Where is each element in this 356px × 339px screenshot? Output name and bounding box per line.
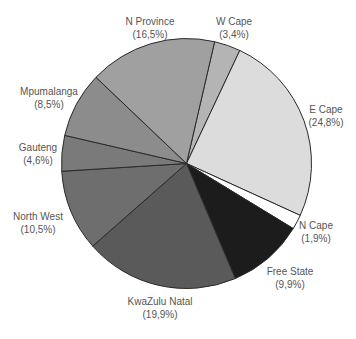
label-w-cape: W Cape (3,4%) [216,16,252,41]
label-mpumalanga: Mpumalanga (8,5%) [20,86,78,111]
label-value: (16,5%) [126,29,175,42]
label-name: Free State [267,266,314,279]
label-value: (8,5%) [20,99,78,112]
label-n-cape: N Cape (1,9%) [299,220,333,245]
label-value: (19,9%) [127,309,192,322]
label-name: N Province [126,16,175,29]
label-value: (3,4%) [216,29,252,42]
label-value: (1,9%) [299,233,333,246]
label-n-province: N Province (16,5%) [126,16,175,41]
label-value: (9,9%) [267,279,314,292]
label-name: Mpumalanga [20,86,78,99]
label-name: E Cape [308,104,343,117]
label-value: (10,5%) [13,224,63,237]
label-name: W Cape [216,16,252,29]
label-gauteng: Gauteng (4,6%) [19,142,57,167]
label-north-west: North West (10,5%) [13,211,63,236]
label-kwazulu-natal: KwaZulu Natal (19,9%) [127,296,192,321]
pie-slices [61,38,311,288]
label-value: (4,6%) [19,155,57,168]
label-name: Gauteng [19,142,57,155]
label-e-cape: E Cape (24,8%) [308,104,343,129]
label-name: North West [13,211,63,224]
label-free-state: Free State (9,9%) [267,266,314,291]
label-name: N Cape [299,220,333,233]
label-value: (24,8%) [308,117,343,130]
label-name: KwaZulu Natal [127,296,192,309]
